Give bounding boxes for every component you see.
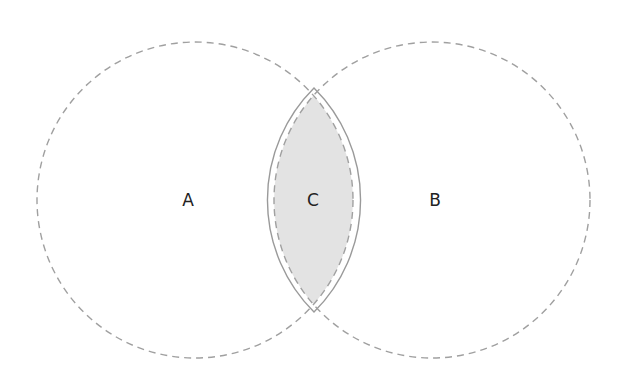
set-a-label: A [182, 190, 194, 210]
venn-diagram: A C B [0, 0, 621, 389]
intersection-c-label: C [307, 190, 319, 210]
set-b-label: B [429, 190, 441, 210]
